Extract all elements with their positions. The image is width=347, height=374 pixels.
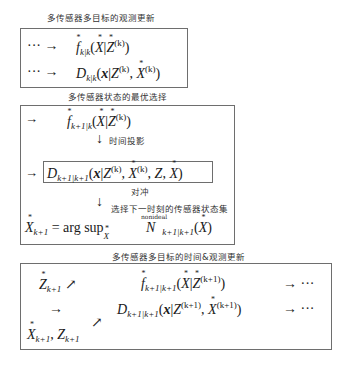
row2-trail: → ··· <box>283 301 315 317</box>
section1-title: 多传感器多目标的观测更新 <box>47 11 155 23</box>
time-observation-update-box: Zk+1 ↗ fk+1|k+1(X|Z(k+1)) → ··· → Dk+1|k… <box>20 263 332 350</box>
ne-arrow-1: ↗ <box>65 277 77 292</box>
nonideal-n-expression: N k+1|k+1(X) <box>146 220 212 237</box>
d-k1k1-expression: Dk+1|k+1(x|Z(k), X(k), Z, X) <box>47 164 183 183</box>
row2-prefix: ··· → <box>27 64 59 80</box>
row1-arrow: → <box>25 111 38 127</box>
hedge-label: 对冲 <box>131 185 149 197</box>
argsup-text: = arg sup <box>52 220 104 235</box>
row2-arrow: → <box>25 165 38 181</box>
d-k1k1-update-expression: Dk+1|k+1(x|Z(k+1), X(k+1)) <box>117 300 241 319</box>
ne-arrow-2: ↗ <box>91 314 103 331</box>
row1-trail: → ··· <box>283 276 315 292</box>
down-arrow-1: ↓ <box>96 131 103 147</box>
f-k1k1-expression: fk+1|k+1(X|Z(k+1)) <box>141 274 225 293</box>
select-next-label: 选择下一时刻的传感器状态集 <box>111 202 228 214</box>
hedging-box: Dk+1|k+1(x|Z(k), X(k), Z, X) <box>43 161 213 183</box>
f-kk-expression: fk|k(X|Z(k)) <box>76 38 129 57</box>
argsup-expression: Xk+1 = arg supX <box>25 220 109 241</box>
z-k1-expression: Zk+1 ↗ <box>39 276 77 294</box>
time-projection-label: 时间投影 <box>109 134 145 146</box>
row2-lead: → <box>49 301 63 317</box>
nonideal-label: nonideal <box>141 213 167 220</box>
f-k1k-expression: fk+1|k(X|Z(k)) <box>67 112 131 131</box>
down-arrow-2: ↓ <box>96 194 103 210</box>
observation-update-box: ··· → fk|k(X|Z(k)) ··· → Dk|k(x|Z(k), X(… <box>20 28 188 88</box>
row1-prefix: ··· → <box>27 38 59 54</box>
optimal-selection-box: → fk+1|k(X|Z(k)) ↓ 时间投影 → Dk+1|k+1(x|Z(k… <box>20 105 235 245</box>
section2-title: 多传感器状态的最优选择 <box>68 90 167 102</box>
x-z-k1-expression: Xk+1, Zk+1 <box>27 327 80 344</box>
section3-title: 多传感器多目标的时间&观测更新 <box>112 250 245 262</box>
d-kk-expression: Dk|k(x|Z(k), X(k)) <box>76 64 160 83</box>
